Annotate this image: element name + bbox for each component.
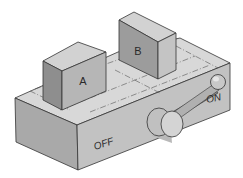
on-position-ball	[211, 75, 226, 90]
block-a-label: A	[79, 75, 87, 87]
block-b-label: B	[134, 45, 141, 57]
switch-diagram: A B ON OFF	[0, 0, 243, 178]
ball-highlight	[213, 77, 219, 82]
